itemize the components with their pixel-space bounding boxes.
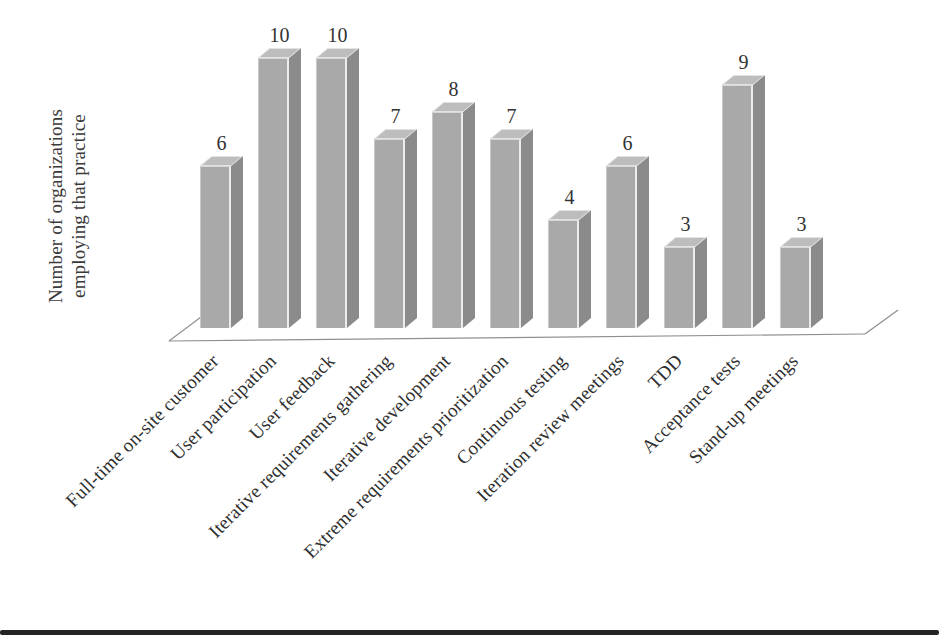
y-axis-title: Number of organizations employing that p… xyxy=(44,46,92,366)
category-label: TDD xyxy=(643,350,687,394)
bar-side-face xyxy=(811,237,823,328)
bar-value-label: 9 xyxy=(714,51,774,73)
bar-front-face xyxy=(664,247,695,328)
bar-side-face xyxy=(347,48,359,328)
bar-front-face xyxy=(722,85,753,328)
bar-value-label: 10 xyxy=(250,24,310,46)
bar-front-face xyxy=(780,247,811,328)
bar-value-label: 6 xyxy=(598,132,658,154)
bar-value-label: 7 xyxy=(366,105,426,127)
bar-front-face xyxy=(548,220,579,328)
category-label: User participation xyxy=(166,350,281,465)
bar-front-face xyxy=(258,58,289,328)
bar-side-face xyxy=(753,75,765,328)
bar-front-face xyxy=(490,139,521,328)
bar-front-face xyxy=(316,58,347,328)
floor-front-edge xyxy=(169,334,865,341)
floor-left-edge xyxy=(169,317,201,341)
y-axis-title-line-2: employing that practice xyxy=(67,46,90,366)
category-label: Acceptance tests xyxy=(637,350,745,458)
bar-front-face xyxy=(374,139,405,328)
bar-front-face xyxy=(432,112,463,328)
bar-value-label: 10 xyxy=(308,24,368,46)
bar-side-face xyxy=(231,156,243,328)
bar-side-face xyxy=(695,237,707,328)
bar-value-label: 6 xyxy=(192,132,252,154)
page-divider-rule xyxy=(0,630,939,635)
bar-side-face xyxy=(521,129,533,328)
bar-side-face xyxy=(405,129,417,328)
bar-side-face xyxy=(637,156,649,328)
bar-value-label: 3 xyxy=(772,213,832,235)
bar-side-face xyxy=(289,48,301,328)
floor-right-edge xyxy=(865,310,898,334)
bar-side-face xyxy=(579,210,591,328)
bar-value-label: 7 xyxy=(482,105,542,127)
bar-front-face xyxy=(606,166,637,328)
bar-value-label: 4 xyxy=(540,186,600,208)
bar-front-face xyxy=(200,166,231,328)
figure-page: Number of organizations employing that p… xyxy=(0,0,939,643)
bar-side-face xyxy=(463,102,475,328)
category-label: Stand-up meetings xyxy=(685,350,803,468)
bar-chart-figure: Number of organizations employing that p… xyxy=(0,0,939,643)
bar-value-label: 8 xyxy=(424,78,484,100)
y-axis-title-line-1: Number of organizations xyxy=(44,46,67,366)
bar-value-label: 3 xyxy=(656,213,716,235)
